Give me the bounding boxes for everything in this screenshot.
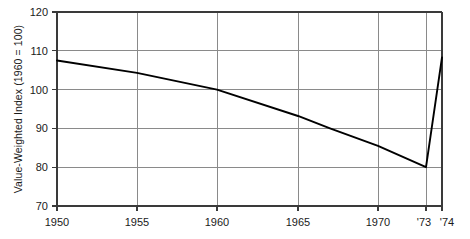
value-weighted-index-line-chart: 120 110 100 90 80 70 1950 1955 1960 1965… (0, 0, 470, 239)
ytick-label-80: 80 (36, 161, 48, 173)
ytick-label-90: 90 (36, 122, 48, 134)
xtick-label-1950: 1950 (45, 216, 69, 228)
y-axis-title: Value-Weighted Index (1960 = 100) (12, 25, 24, 193)
ytick-label-100: 100 (30, 84, 48, 96)
ytick-label-70: 70 (36, 200, 48, 212)
xtick-label-1973: '73 (417, 216, 431, 228)
xtick-label-1965: 1965 (286, 216, 310, 228)
chart-container: 120 110 100 90 80 70 1950 1955 1960 1965… (0, 0, 470, 239)
xtick-label-1955: 1955 (125, 216, 149, 228)
ytick-label-110: 110 (30, 45, 48, 57)
xtick-label-1960: 1960 (205, 216, 229, 228)
ytick-label-120: 120 (30, 6, 48, 18)
xtick-label-1970: 1970 (366, 216, 390, 228)
chart-background (0, 0, 470, 239)
xtick-label-1974: '74 (440, 216, 454, 228)
